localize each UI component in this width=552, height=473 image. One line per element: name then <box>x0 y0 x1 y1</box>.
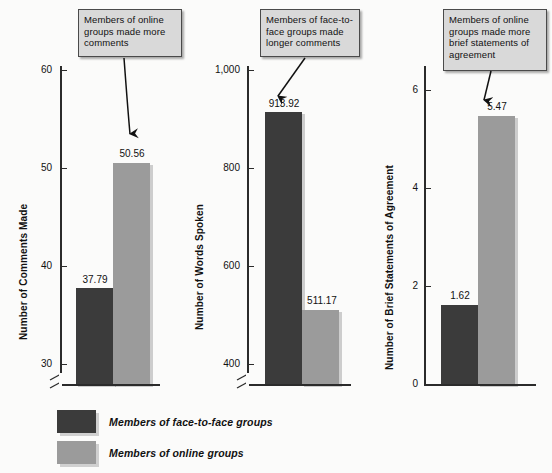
panel-comments-made: Members of online groups made more comme… <box>0 0 190 400</box>
annotation-arrow-1 <box>124 58 130 134</box>
panel3-tick-0 <box>424 384 431 385</box>
panel1-ticklabel-50: 50 <box>28 162 52 173</box>
panel3-y-axis <box>424 66 426 384</box>
panel2-barlabel-face-to-face: 913.92 <box>256 98 312 109</box>
legend-item-online[interactable]: Members of online groups <box>57 441 244 464</box>
annotation-arrow-3 <box>484 71 491 100</box>
panel1-barlabel-online: 50.56 <box>107 148 157 159</box>
panel3-bar-face-to-face[interactable] <box>441 305 478 384</box>
panel2-tick-400 <box>247 364 254 365</box>
panel3-x-axis <box>424 384 536 386</box>
panel3-y-axis-title: Number of Brief Statements of Agreement <box>384 165 395 370</box>
chart-figure: Members of online groups made more comme… <box>0 0 552 473</box>
panel3-tick-6 <box>424 90 431 91</box>
panel2-ticklabel-800: 800 <box>204 162 240 173</box>
panel1-tick-40 <box>60 266 67 267</box>
panel3-bar-online[interactable] <box>478 116 515 384</box>
panel1-y-axis <box>60 66 62 376</box>
panel2-bar-online[interactable] <box>302 310 339 385</box>
legend-label-online: Members of online groups <box>109 447 244 459</box>
legend-item-face-to-face[interactable]: Members of face-to-face groups <box>57 410 273 433</box>
panel2-barlabel-online: 511.17 <box>294 295 350 306</box>
panel3-ticklabel-2: 2 <box>402 280 418 291</box>
legend-label-face-to-face: Members of face-to-face groups <box>109 416 273 428</box>
panel3-tick-4 <box>424 188 431 189</box>
panel3-barlabel-online: 5.47 <box>472 101 522 112</box>
panel2-bar-face-to-face[interactable] <box>265 112 302 384</box>
panel-words-spoken: Members of face-to-face groups made long… <box>190 0 380 400</box>
chart-legend: Members of face-to-face groups Members o… <box>0 398 552 473</box>
legend-swatch-face-to-face <box>57 410 96 433</box>
panel2-tick-600 <box>247 266 254 267</box>
panel3-ticklabel-4: 4 <box>402 182 418 193</box>
panel2-y-axis <box>247 66 249 376</box>
panel2-ticklabel-1000: 1,000 <box>204 64 240 75</box>
panel2-tick-1000 <box>247 70 254 71</box>
panel2-y-axis-title: Number of Words Spoken <box>194 204 205 330</box>
panel-brief-statements: Members of online groups made more brief… <box>380 0 552 400</box>
panel1-tick-50 <box>60 168 67 169</box>
panel2-tick-800 <box>247 168 254 169</box>
panel1-y-axis-title: Number of Comments Made <box>18 204 29 340</box>
panel1-bar-face-to-face[interactable] <box>76 288 113 385</box>
panel3-ticklabel-0: 0 <box>402 378 418 389</box>
panel2-ticklabel-600: 600 <box>204 260 240 271</box>
panel3-tick-2 <box>424 286 431 287</box>
panel3-ticklabel-6: 6 <box>402 84 418 95</box>
panel1-bar-online[interactable] <box>113 163 150 385</box>
panel2-ticklabel-400: 400 <box>204 358 240 369</box>
annotation-arrow-2 <box>278 58 305 96</box>
panel1-ticklabel-60: 60 <box>28 64 52 75</box>
panel1-ticklabel-40: 40 <box>28 260 52 271</box>
panel1-ticklabel-30: 30 <box>28 358 52 369</box>
panel1-tick-60 <box>60 70 67 71</box>
panel1-tick-30 <box>60 364 67 365</box>
legend-swatch-online <box>57 441 96 464</box>
